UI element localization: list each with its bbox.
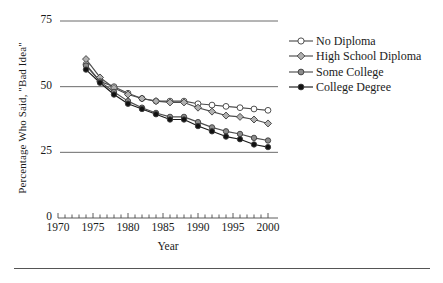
- data-point: [97, 80, 102, 85]
- legend-item-0[interactable]: No Diploma: [288, 33, 438, 49]
- data-point: [167, 117, 172, 122]
- data-point: [83, 67, 88, 72]
- data-point: [111, 92, 116, 97]
- x-axis-tick-label: 1985: [143, 221, 183, 233]
- series-line-2: [86, 66, 268, 141]
- legend-item-label: College Degree: [314, 80, 391, 94]
- x-axis-tick-label: 1980: [108, 221, 148, 233]
- x-axis-tick-label: 1995: [213, 221, 253, 233]
- data-point: [209, 108, 216, 115]
- data-point: [265, 144, 270, 149]
- data-point: [251, 106, 257, 112]
- figure: 0255075 1970197519801985199019952000 Per…: [0, 0, 443, 283]
- data-point: [223, 103, 229, 109]
- data-point: [251, 116, 258, 123]
- data-point: [223, 134, 228, 139]
- data-point: [237, 113, 244, 120]
- legend-marker-icon: [288, 80, 314, 94]
- legend-item-label: High School Diploma: [314, 49, 421, 63]
- data-point: [251, 142, 256, 147]
- legend-marker-icon: [288, 34, 314, 48]
- x-axis-tick-label: 1975: [73, 221, 113, 233]
- data-point: [125, 101, 130, 106]
- bottom-divider-rule: [14, 268, 430, 269]
- legend-item-label: Some College: [314, 65, 384, 79]
- legend-marker-icon: [288, 65, 314, 79]
- data-point: [139, 106, 144, 111]
- x-axis-tick-label: 2000: [248, 221, 288, 233]
- data-point: [265, 120, 272, 127]
- data-point: [223, 112, 230, 119]
- legend-item-1[interactable]: High School Diploma: [288, 49, 438, 65]
- data-point: [237, 131, 242, 136]
- data-point: [265, 107, 271, 113]
- data-point: [237, 105, 243, 111]
- data-point: [181, 117, 186, 122]
- chart-legend: No DiplomaHigh School DiplomaSome Colleg…: [288, 33, 438, 95]
- x-axis-tick-label: 1970: [38, 221, 78, 233]
- legend-item-label: No Diploma: [314, 34, 376, 48]
- data-point: [223, 129, 228, 134]
- legend-marker-icon: [288, 49, 314, 63]
- data-point: [209, 129, 214, 134]
- legend-item-3[interactable]: College Degree: [288, 80, 438, 96]
- x-axis-title: Year: [118, 240, 218, 252]
- x-axis-ticks: [58, 213, 278, 218]
- x-axis-tick-label: 1990: [178, 221, 218, 233]
- legend-item-2[interactable]: Some College: [288, 64, 438, 80]
- data-point: [139, 95, 146, 102]
- data-point: [265, 138, 270, 143]
- data-point: [153, 98, 160, 105]
- data-point: [209, 102, 215, 108]
- data-point: [251, 135, 256, 140]
- y-axis-title: Percentage Who Said, "Bad Idea": [16, 18, 32, 218]
- gridlines: [60, 21, 278, 152]
- data-point: [237, 137, 242, 142]
- data-point: [195, 123, 200, 128]
- data-point: [153, 112, 158, 117]
